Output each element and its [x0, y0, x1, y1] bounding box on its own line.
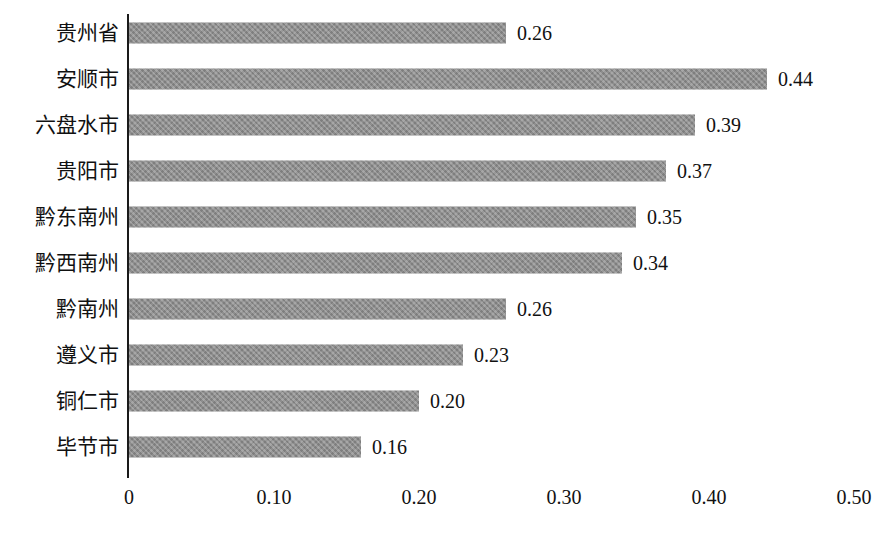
category-label: 六盘水市: [35, 115, 119, 136]
bar-row: 黔南州 0.26: [0, 286, 880, 332]
bar-value-label: 0.16: [372, 437, 407, 457]
bar-segment: [129, 115, 695, 136]
category-label: 黔西南州: [35, 253, 119, 274]
x-axis-tick-label: 0: [124, 487, 134, 507]
bar-segment: [129, 161, 666, 182]
bar-segment: [129, 207, 636, 228]
category-label: 黔东南州: [35, 207, 119, 228]
category-label: 毕节市: [56, 437, 119, 458]
plot-area: 贵州省 0.26 安顺市 0.44 六盘水市 0.39 贵阳市 0.37 黔东南…: [0, 0, 880, 542]
category-label: 安顺市: [56, 69, 119, 90]
bar-value-label: 0.26: [517, 23, 552, 43]
category-label: 遵义市: [56, 345, 119, 366]
bar-row: 遵义市 0.23: [0, 332, 880, 378]
bar-segment: [129, 391, 419, 412]
bar-row: 黔东南州 0.35: [0, 194, 880, 240]
x-axis-tick-label: 0.30: [547, 487, 582, 507]
bar-row: 贵州省 0.26: [0, 10, 880, 56]
bar-row: 黔西南州 0.34: [0, 240, 880, 286]
bar-row: 铜仁市 0.20: [0, 378, 880, 424]
x-axis-tick-label: 0.10: [257, 487, 292, 507]
category-label: 贵州省: [56, 23, 119, 44]
category-label: 黔南州: [56, 299, 119, 320]
bar-row: 六盘水市 0.39: [0, 102, 880, 148]
bar-segment: [129, 299, 506, 320]
bar-value-label: 0.23: [474, 345, 509, 365]
bar-row: 贵阳市 0.37: [0, 148, 880, 194]
bar-value-label: 0.39: [706, 115, 741, 135]
bar-segment: [129, 69, 767, 90]
x-axis-tick-label: 0.40: [692, 487, 727, 507]
bar-row: 安顺市 0.44: [0, 56, 880, 102]
bar-value-label: 0.44: [778, 69, 813, 89]
bar-row: 毕节市 0.16: [0, 424, 880, 470]
bar-segment: [129, 253, 622, 274]
bar-segment: [129, 437, 361, 458]
bar-value-label: 0.37: [677, 161, 712, 181]
bar-chart: 贵州省 0.26 安顺市 0.44 六盘水市 0.39 贵阳市 0.37 黔东南…: [0, 0, 880, 542]
bar-value-label: 0.34: [633, 253, 668, 273]
bar-value-label: 0.26: [517, 299, 552, 319]
bar-segment: [129, 345, 463, 366]
x-axis-tick-label: 0.20: [402, 487, 437, 507]
bar-value-label: 0.35: [647, 207, 682, 227]
bar-segment: [129, 23, 506, 44]
x-axis-tick-label: 0.50: [837, 487, 872, 507]
category-label: 贵阳市: [56, 161, 119, 182]
bar-value-label: 0.20: [430, 391, 465, 411]
category-label: 铜仁市: [56, 391, 119, 412]
